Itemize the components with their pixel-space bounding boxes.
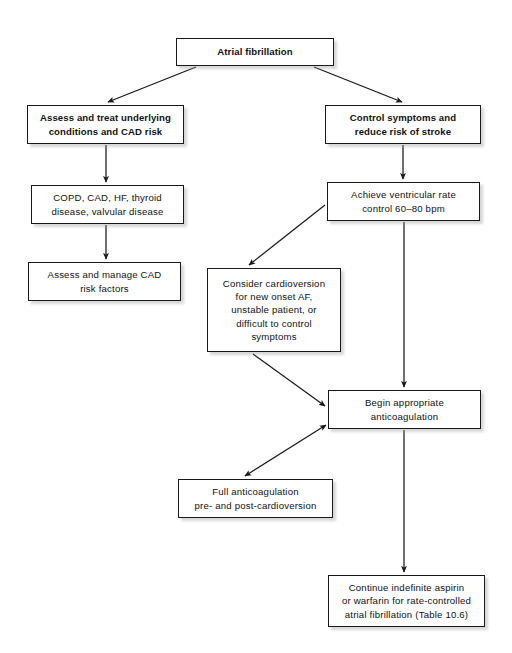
edge-begin-anticoagulation-full-anticoagulation xyxy=(245,425,326,476)
node-assess-treat-underlying[interactable]: Assess and treat underlying conditions a… xyxy=(27,105,184,144)
node-achieve-ventricular-rate[interactable]: Achieve ventricular rate control 60–80 b… xyxy=(327,182,480,221)
edge-af-to-assess-treat xyxy=(108,67,196,102)
node-label: Assess and manage CAD risk factors xyxy=(29,268,180,294)
node-full-anticoagulation[interactable]: Full anticoagulation pre- and post-cardi… xyxy=(178,479,333,518)
node-label: Achieve ventricular rate control 60–80 b… xyxy=(328,188,479,214)
node-assess-manage-cad[interactable]: Assess and manage CAD risk factors xyxy=(28,262,181,301)
node-label: Full anticoagulation pre- and post-cardi… xyxy=(179,485,332,511)
edge-af-to-control-symptoms xyxy=(314,67,402,102)
node-label: Atrial fibrillation xyxy=(177,45,333,58)
node-continue-indefinite[interactable]: Continue indefinite aspirin or warfarin … xyxy=(328,575,485,627)
node-control-symptoms[interactable]: Control symptoms and reduce risk of stro… xyxy=(325,105,481,144)
node-begin-anticoagulation[interactable]: Begin appropriate anticoagulation xyxy=(328,390,481,429)
node-label: Consider cardioversion for new onset AF,… xyxy=(208,277,340,343)
flowchart-canvas: Atrial fibrillation Assess and treat und… xyxy=(0,0,512,653)
node-label: Assess and treat underlying conditions a… xyxy=(28,111,183,137)
node-label: COPD, CAD, HF, thyroid disease, valvular… xyxy=(32,191,183,217)
node-label: Continue indefinite aspirin or warfarin … xyxy=(329,581,484,621)
node-label: Begin appropriate anticoagulation xyxy=(329,396,480,422)
node-copd-cad-hf[interactable]: COPD, CAD, HF, thyroid disease, valvular… xyxy=(31,185,184,224)
node-label: Control symptoms and reduce risk of stro… xyxy=(326,111,480,137)
node-atrial-fibrillation[interactable]: Atrial fibrillation xyxy=(176,38,334,66)
edge-achieve-rate-to-cardioversion xyxy=(249,205,325,265)
edge-cardioversion-to-begin-anticoagulation xyxy=(253,354,325,406)
node-consider-cardioversion[interactable]: Consider cardioversion for new onset AF,… xyxy=(207,268,341,352)
